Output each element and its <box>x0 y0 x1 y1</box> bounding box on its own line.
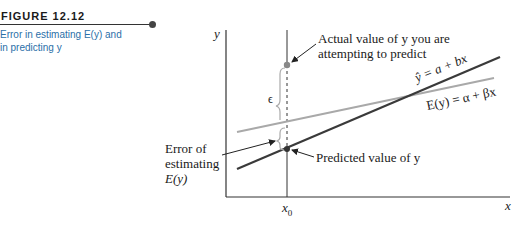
x0-subscript: 0 <box>288 208 293 218</box>
epsilon-brace <box>276 68 285 120</box>
error-estimating-label: Error of estimating E(y) <box>165 141 219 186</box>
y-axis-label: y <box>214 26 220 41</box>
x0-label: x0 <box>282 200 292 221</box>
actual-arrow <box>292 44 316 62</box>
error-label-line-3: E(y) <box>165 171 219 186</box>
error-arrow <box>222 141 275 155</box>
regression-diagram <box>0 0 532 228</box>
actual-label-line-2: attempting to predict <box>318 46 450 61</box>
error-label-line-2: estimating <box>165 156 219 171</box>
predicted-arrow <box>292 150 314 157</box>
x-axis-label: x <box>505 198 511 213</box>
actual-value-label: Actual value of y you are attempting to … <box>318 31 450 61</box>
predicted-value-label: Predicted value of y <box>316 150 420 165</box>
actual-value-point <box>284 62 290 68</box>
predicted-value-point <box>284 146 290 152</box>
error-label-line-1: Error of <box>165 141 219 156</box>
error-brace <box>277 128 285 150</box>
actual-label-line-1: Actual value of y you are <box>318 31 450 46</box>
epsilon-label: ϵ <box>268 92 273 107</box>
